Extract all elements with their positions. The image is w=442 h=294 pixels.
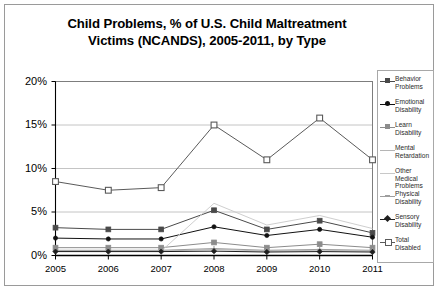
y-tick-label: 20% [7, 75, 47, 87]
legend-item-sensory-disability[interactable]: Sensory Disability [380, 213, 431, 232]
series-emotional-disability [53, 225, 374, 241]
y-tick-label: 5% [7, 205, 47, 217]
legend-marker-icon [380, 237, 395, 248]
legend-marker-icon [380, 99, 395, 110]
y-tick-label: 0% [7, 249, 47, 261]
legend-item-behavior-problems[interactable]: Behavior Problems [380, 75, 431, 94]
legend-marker-icon [380, 214, 395, 225]
legend-label: Other Medical Problems [395, 167, 431, 190]
x-tick-label: 2005 [33, 263, 79, 274]
axes [52, 82, 373, 260]
x-tick-label: 2010 [297, 263, 343, 274]
x-tick-label: 2011 [350, 263, 396, 274]
legend-item-learn-disability[interactable]: Learn Disability [380, 121, 431, 140]
chart-legend: Behavior ProblemsEmotional DisabilityLea… [377, 70, 434, 263]
gridlines [56, 82, 373, 213]
legend-item-emotional-disability[interactable]: Emotional Disability [380, 98, 431, 117]
y-tick-label: 15% [7, 118, 47, 130]
legend-label: Emotional Disability [395, 98, 431, 113]
legend-label: Behavior Problems [395, 75, 431, 90]
legend-label: Learn Disability [395, 121, 431, 136]
x-tick-label: 2009 [244, 263, 290, 274]
legend-item-physical-disability[interactable]: Physical Disability [380, 190, 431, 209]
legend-marker-icon [380, 191, 395, 202]
legend-item-mental-retardation[interactable]: Mental Retardation [380, 144, 431, 163]
legend-label: Sensory Disability [395, 213, 431, 228]
legend-label: Mental Retardation [395, 144, 431, 159]
series-total-disabled [53, 115, 376, 193]
plot-area: 0%5%10%15%20% 20052006200720082009201020… [0, 0, 442, 294]
legend-marker-icon [380, 76, 395, 87]
legend-item-total-disabled[interactable]: Total Disabled [380, 236, 431, 255]
data-series-layer [53, 115, 376, 255]
legend-marker-icon [380, 168, 395, 179]
y-tick-label: 10% [7, 162, 47, 174]
x-tick-label: 2008 [191, 263, 237, 274]
legend-item-other-medical-problems[interactable]: Other Medical Problems [380, 167, 431, 186]
legend-marker-icon [380, 145, 395, 156]
x-tick-label: 2006 [85, 263, 131, 274]
plot-svg [0, 0, 442, 294]
legend-label: Total Disabled [395, 236, 431, 251]
x-tick-label: 2007 [138, 263, 184, 274]
legend-marker-icon [380, 122, 395, 133]
legend-label: Physical Disability [395, 190, 431, 205]
